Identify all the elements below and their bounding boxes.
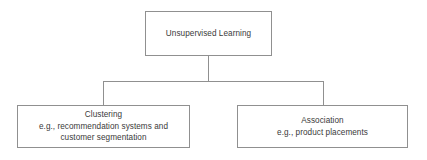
- connector-right-branch: [323, 81, 324, 106]
- node-unsupervised-learning: Unsupervised Learning: [145, 11, 272, 56]
- node-clustering-line-2: e.g., recommendation systems and: [39, 121, 168, 133]
- connector-root-stem: [208, 56, 209, 82]
- node-clustering-line-1: Clustering: [85, 109, 122, 121]
- node-association-line-2: e.g., product placements: [277, 127, 368, 139]
- node-association-line-1: Association: [301, 115, 343, 127]
- diagram-canvas: Unsupervised Learning Clustering e.g., r…: [0, 0, 427, 160]
- node-clustering-line-3: customer segmentation: [60, 132, 146, 144]
- node-clustering: Clustering e.g., recommendation systems …: [17, 105, 190, 148]
- node-unsupervised-learning-line-1: Unsupervised Learning: [166, 28, 251, 40]
- node-association: Association e.g., product placements: [237, 105, 408, 148]
- connector-left-branch: [103, 81, 104, 106]
- connector-horizontal-bar: [103, 81, 324, 82]
